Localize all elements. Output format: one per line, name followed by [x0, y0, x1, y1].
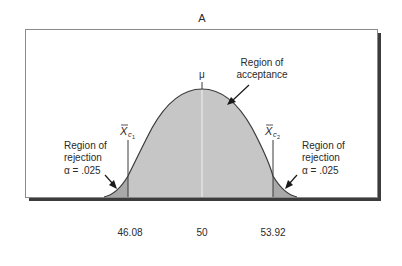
axis-label-mean: 50: [196, 227, 208, 238]
mu-label: μ: [199, 69, 205, 80]
rejection-left-label-line3: α = .025: [64, 165, 101, 176]
svg-text:X: X: [264, 125, 273, 137]
rejection-right-label-line2: rejection: [302, 152, 340, 163]
acceptance-label-line2: acceptance: [236, 69, 288, 80]
svg-text:2: 2: [277, 134, 280, 140]
rejection-left-label-line2: rejection: [64, 152, 102, 163]
rejection-right-label-line1: Region of: [302, 140, 345, 151]
svg-text:X: X: [119, 125, 128, 137]
rejection-right-label-line3: α = .025: [302, 165, 339, 176]
axis-label-lower-critical: 46.08: [117, 227, 142, 238]
axis-label-upper-critical: 53.92: [260, 227, 285, 238]
two-tailed-hypothesis-test-diagram: A μ X c 1 X: [0, 0, 402, 266]
acceptance-label-line1: Region of: [241, 57, 284, 68]
svg-text:1: 1: [132, 134, 135, 140]
panel-label: A: [198, 12, 206, 24]
rejection-left-label-line1: Region of: [64, 140, 107, 151]
